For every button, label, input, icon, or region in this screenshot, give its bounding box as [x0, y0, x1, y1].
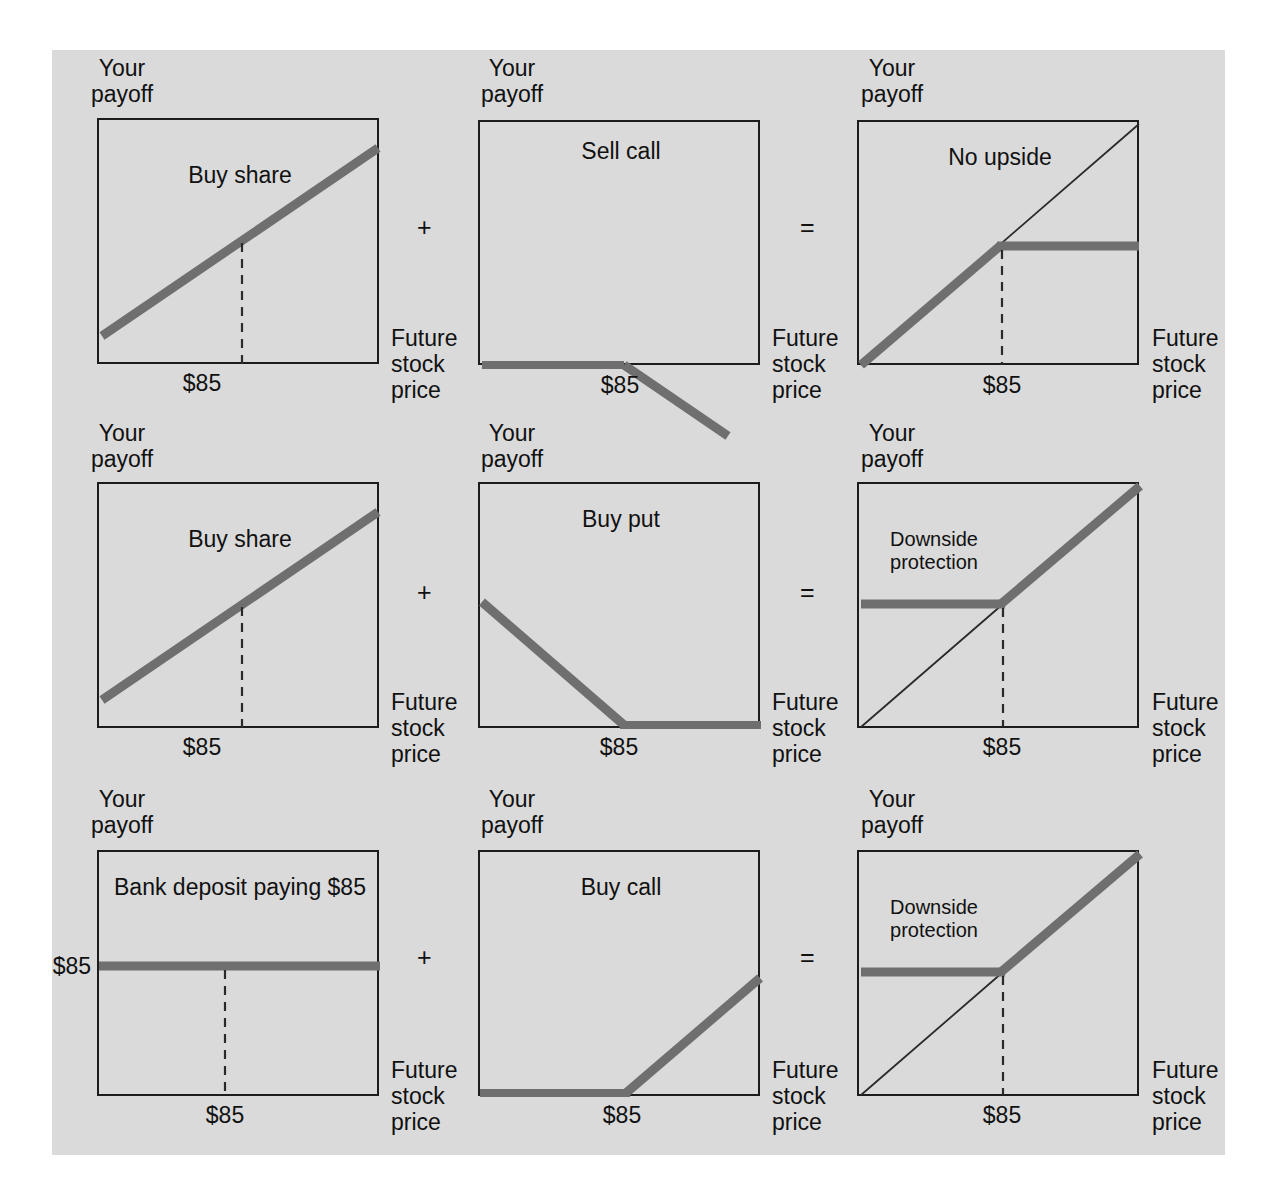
panel-buy-call-x-tick: $85 [587, 1102, 657, 1128]
panel-no-upside-title: No upside [859, 144, 1141, 170]
panel-buy-share-2-x-tick: $85 [167, 734, 237, 760]
panel-buy-share-2-title: Buy share [99, 526, 381, 552]
panel-buy-call-plot: Buy call [478, 850, 760, 1096]
panel-sell-call-plot: Sell call [478, 120, 760, 365]
panel-buy-share-2-y-axis-label: Your payoff [62, 420, 182, 472]
buy-put-descending-segment [482, 602, 624, 725]
panel-bank-deposit-title: Bank deposit paying $85 [99, 874, 381, 900]
operator-row1-plus: + [417, 215, 432, 240]
panel-no-upside-x-axis-label: Future stock price [1152, 325, 1262, 403]
panel-downside-protection-2-y-axis-label: Your payoff [832, 786, 952, 838]
panel-buy-call-title: Buy call [480, 874, 762, 900]
no-upside-rising-segment [861, 246, 1000, 365]
panel-buy-call-y-axis-label: Your payoff [452, 786, 572, 838]
panel-downside-protection-1-title: Downside protection [824, 528, 1044, 574]
operator-row2-equals: = [800, 580, 815, 605]
panel-no-upside-plot: No upside [857, 120, 1139, 365]
figure-background: Your payoff Buy share $85 Future stock p… [52, 50, 1225, 1155]
operator-row3-plus: + [417, 945, 432, 970]
operator-row1-equals: = [800, 215, 815, 240]
panel-sell-call-x-tick: $85 [585, 372, 655, 398]
panel-buy-put-y-axis-label: Your payoff [452, 420, 572, 472]
panel-sell-call-title: Sell call [480, 138, 762, 164]
panel-downside-protection-2-x-tick: $85 [967, 1102, 1037, 1128]
panel-buy-share-1-title: Buy share [99, 162, 381, 188]
panel-downside-protection-2-title: Downside protection [824, 896, 1044, 942]
operator-row2-plus: + [417, 580, 432, 605]
panel-downside-protection-1-y-axis-label: Your payoff [832, 420, 952, 472]
panel-bank-deposit-plot: Bank deposit paying $85 [97, 850, 379, 1096]
buy-call-rising-segment [626, 978, 760, 1093]
panel-buy-put-x-tick: $85 [584, 734, 654, 760]
panel-buy-share-1-plot: Buy share [97, 118, 379, 364]
panel-no-upside-y-axis-label: Your payoff [832, 55, 952, 107]
panel-buy-put-plot: Buy put [478, 482, 760, 728]
operator-row3-equals: = [800, 945, 815, 970]
panel-bank-deposit-y-axis-label: Your payoff [62, 786, 182, 838]
panel-downside-protection-1-x-tick: $85 [967, 734, 1037, 760]
panel-buy-share-2-plot: Buy share [97, 482, 379, 728]
panel-buy-put-title: Buy put [480, 506, 762, 532]
panel-downside-protection-2-x-axis-label: Future stock price [1152, 1057, 1262, 1135]
panel-buy-share-1-x-tick: $85 [167, 370, 237, 396]
panel-downside-protection-2-plot: Downside protection [857, 850, 1139, 1096]
panel-downside-protection-1-plot: Downside protection [857, 482, 1139, 728]
downside-protection-1-share-reference-line [861, 604, 1003, 727]
downside-protection-2-share-reference-line [861, 972, 1003, 1095]
panel-bank-deposit-y-tick: $85 [27, 953, 91, 979]
panel-downside-protection-1-x-axis-label: Future stock price [1152, 689, 1262, 767]
panel-buy-share-1-y-axis-label: Your payoff [62, 55, 182, 107]
panel-bank-deposit-x-tick: $85 [190, 1102, 260, 1128]
panel-no-upside-x-tick: $85 [967, 372, 1037, 398]
panel-sell-call-y-axis-label: Your payoff [452, 55, 572, 107]
